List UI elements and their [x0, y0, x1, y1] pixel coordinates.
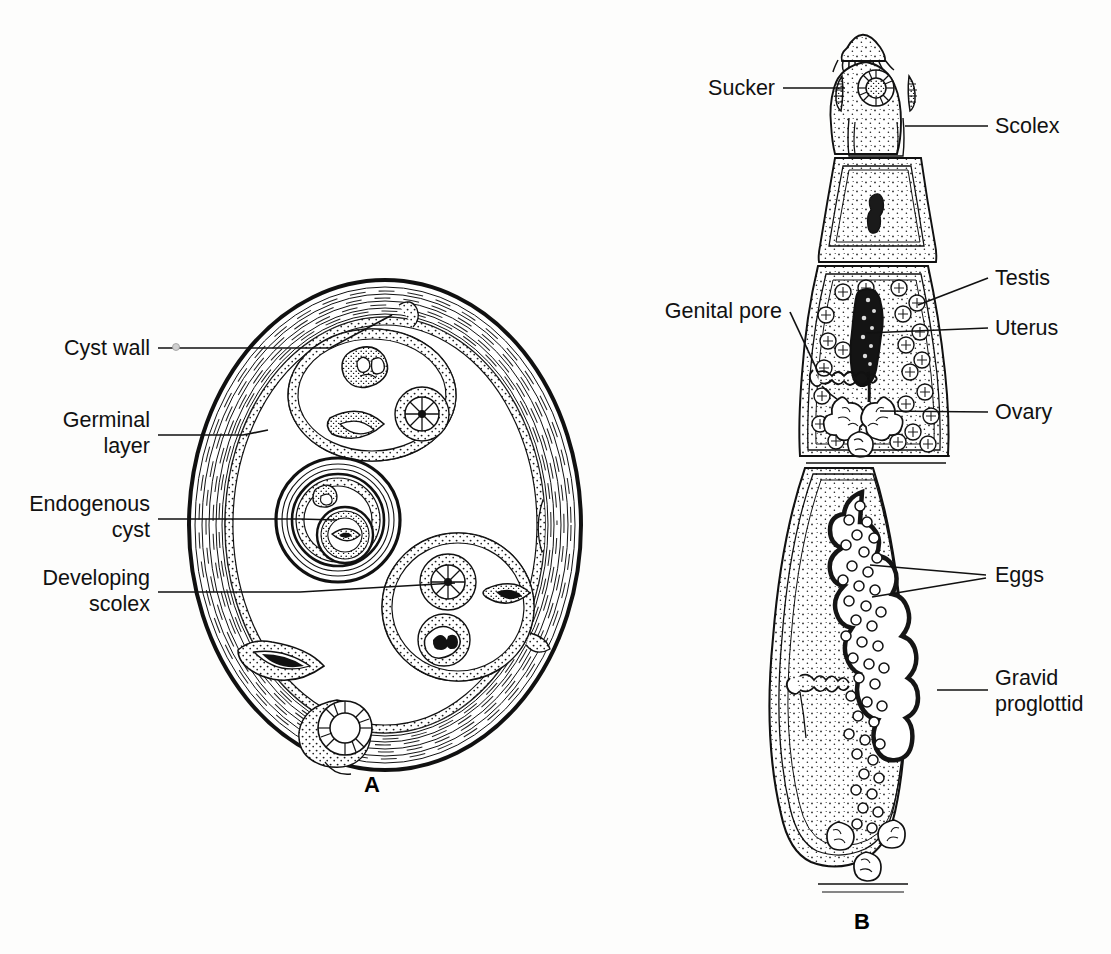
protoscolex-invaginated — [418, 614, 470, 666]
protoscolex-invaginated — [342, 347, 388, 388]
sucker-lateral-right — [908, 76, 915, 111]
label-developing-scolex-line2: scolex — [89, 592, 150, 616]
rostellum — [842, 35, 886, 61]
label-scolex: Scolex — [995, 114, 1060, 138]
gravid-proglottid — [769, 468, 918, 892]
immature-proglottid — [819, 158, 937, 262]
mature-proglottid — [799, 266, 950, 463]
sucker-central — [858, 70, 894, 106]
panel-b-adult-tapeworm: B — [769, 35, 950, 934]
inner-cyst — [317, 507, 373, 563]
vitelline-gland — [848, 432, 873, 457]
label-ovary: Ovary — [995, 400, 1053, 424]
label-testis: Testis — [995, 266, 1050, 290]
label-germinal-layer-line1: Germinal — [63, 408, 150, 432]
label-eggs: Eggs — [995, 563, 1044, 587]
label-genital-pore: Genital pore — [665, 299, 782, 323]
leader-ovary — [880, 411, 988, 412]
scolex — [830, 35, 917, 156]
label-uterus: Uterus — [995, 316, 1058, 340]
label-cyst-wall: Cyst wall — [64, 336, 150, 360]
figure-canvas: A — [0, 0, 1111, 954]
label-endogenous-cyst-line2: cyst — [112, 518, 150, 542]
label-endogenous-cyst-line1: Endogenous — [29, 492, 150, 516]
panel-letter-a: A — [364, 772, 380, 797]
panel-letter-b: B — [854, 909, 870, 934]
label-developing-scolex-line1: Developing — [42, 566, 150, 590]
leader-dot-cyst-wall — [173, 344, 180, 351]
label-gravid-proglottid-line1: Gravid — [995, 666, 1058, 690]
diagram-svg: A — [0, 0, 1111, 954]
panel-a-hydatid-cyst: A — [0, 0, 581, 797]
endogenous-daughter-cyst — [276, 458, 400, 582]
developing-scolex-upper — [395, 387, 449, 441]
label-germinal-layer-line2: layer — [103, 434, 150, 458]
label-gravid-proglottid-line2: proglottid — [995, 692, 1083, 716]
developing-scolex-lower — [420, 554, 476, 610]
label-sucker: Sucker — [708, 76, 775, 100]
leader-endogenous-cyst — [158, 519, 337, 520]
